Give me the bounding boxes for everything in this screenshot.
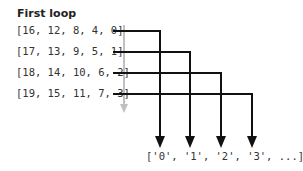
output-list: ['0', '1', '2', '3', ...]	[146, 150, 303, 162]
connector-lines	[113, 31, 252, 140]
flow-diagram	[0, 0, 303, 171]
down-arrow-icons	[155, 136, 257, 148]
gray-down-arrow-icon	[120, 25, 128, 113]
